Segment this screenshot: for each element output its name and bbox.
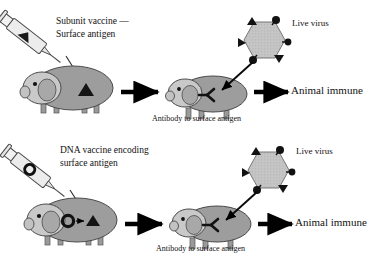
pig-eye	[33, 82, 37, 86]
live-virus-top	[238, 16, 291, 64]
virus-capsid	[244, 22, 285, 58]
pig-immune-subunit	[166, 76, 248, 119]
dna-vaccine-label-line2: surface antigen	[60, 158, 118, 169]
virus-spike-triangle	[247, 17, 257, 25]
pig-injected-subunit	[20, 66, 113, 113]
animal-immune-label-bottom: Animal immune	[295, 216, 367, 229]
subunit-vaccine-label-line1: Subunit vaccine —	[56, 16, 129, 27]
dna-vaccine-label-line1: DNA vaccine encoding	[60, 145, 149, 156]
pig-injected-dna	[24, 198, 117, 245]
pig-ear	[38, 79, 56, 101]
virus-spike-triangle	[251, 147, 261, 155]
pig-snout	[20, 86, 30, 98]
subunit-vaccine-label-line2: Surface antigen	[56, 29, 115, 40]
live-virus-label-bottom: Live virus	[296, 146, 333, 156]
animal-immune-label-top: Animal immune	[291, 84, 363, 97]
antibody-caption-bottom: Antibody to surface antigen	[156, 244, 245, 253]
dna-panel-graphics	[0, 144, 295, 249]
live-virus-label-top: Live virus	[292, 18, 329, 28]
subunit-panel-graphics	[0, 10, 291, 119]
virus-capsid	[248, 152, 289, 188]
vaccine-comparison-figure: Subunit vaccine — Surface antigen Live v…	[0, 0, 381, 261]
syringe-dna-icon	[0, 144, 69, 203]
pig-immune-dna	[170, 206, 252, 249]
live-virus-bottom	[242, 146, 295, 194]
virus-spike-triangle	[274, 55, 284, 63]
antibody-caption-top: Antibody to surface antigen	[152, 114, 241, 123]
virus-spike-triangle	[278, 185, 288, 193]
